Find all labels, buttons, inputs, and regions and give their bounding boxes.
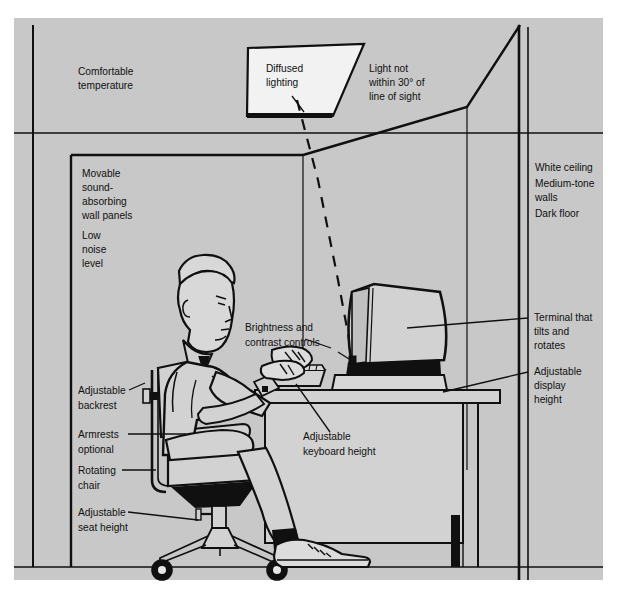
chair-caster-left [152,560,172,580]
desk-top [255,390,500,403]
person-mouth [221,329,229,330]
monitor-base [332,375,447,390]
chair-gas-cylinder [212,506,226,528]
light-fixture-underside [247,113,333,118]
monitor-screen-bezel [352,288,369,364]
desk-front-panel [265,403,463,543]
ergonomic-workstation-figure: Comfortable temperature Diffused lightin… [0,0,617,596]
desk-foot-block [451,515,460,567]
brightness-contrast-knob[interactable] [349,356,356,363]
person-hand-lower [261,361,305,380]
person-cuff-button [262,386,268,392]
